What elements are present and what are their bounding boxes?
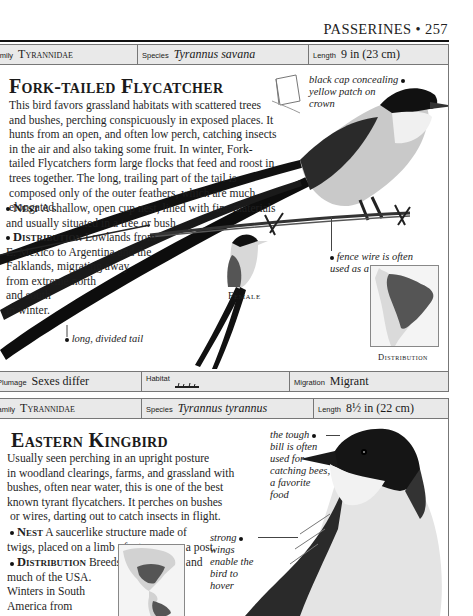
- migration-cell: Migration Migrant: [290, 372, 448, 391]
- callout-line: food: [270, 489, 330, 501]
- nest-text: A shallow, open cup nest, lined with fin…: [6, 202, 276, 230]
- female-bird-figure: [195, 234, 268, 369]
- entry-panel-fork-tailed-flycatcher: Fork-tailed Flycatcher This bird favors …: [0, 65, 449, 371]
- length-cell: Length 9 in (23 cm): [309, 45, 448, 64]
- bullet-icon: [6, 207, 10, 211]
- callout-line: fence wire is often: [337, 251, 413, 262]
- species-label: Species: [142, 51, 169, 60]
- species-value: Tyrannus savana: [174, 47, 255, 62]
- wings-leader-line: [258, 537, 298, 538]
- callout-line: used for: [270, 453, 330, 465]
- species-infobar-top: Family Tyrannidae Species Tyrannus tyran…: [0, 398, 449, 419]
- nest-label: Nest: [17, 525, 43, 539]
- family-cell: Family Tyrannidae: [0, 45, 138, 64]
- habitat-cell: Habitat: [142, 372, 290, 391]
- leader-dot-icon: [312, 434, 316, 438]
- callout-line: yellow patch on: [309, 86, 405, 98]
- grassland-habitat-icon: [175, 381, 199, 389]
- length-label: Length: [313, 51, 336, 60]
- description-text: This bird favors grassland habitats with…: [9, 99, 277, 216]
- leader-dot-icon: [401, 79, 405, 83]
- migration-value: Migrant: [330, 374, 369, 389]
- callout-line: catching bees,: [270, 465, 330, 477]
- fence-leader-line: [331, 217, 332, 251]
- description-line: Usually seen perching in an upright post…: [7, 452, 287, 467]
- callout-black-cap: black cap concealing yellow patch on cro…: [309, 74, 405, 110]
- family-label: Family: [0, 405, 15, 414]
- plumage-cell: Plumage Sexes differ: [0, 372, 142, 391]
- family-cell: Family Tyrannidae: [0, 399, 142, 418]
- callout-line: bird to: [210, 568, 253, 580]
- south-america-map-icon: [371, 266, 439, 347]
- distribution-map: [118, 544, 185, 616]
- species-label: Species: [146, 405, 173, 414]
- section-name: PASSERINES: [323, 21, 411, 37]
- bullet-icon: [10, 562, 14, 566]
- map-caption: Distribution: [378, 352, 428, 362]
- page-number: 257: [425, 21, 448, 37]
- callout-strong-wings: strong wings enable the bird to hover: [210, 532, 253, 592]
- species-title: Fork-tailed Flycatcher: [9, 75, 223, 98]
- distribution-map: [370, 265, 439, 347]
- nest-text: A saucerlike structure made of: [45, 526, 187, 539]
- species-description: This bird favors grassland habitats with…: [9, 99, 277, 216]
- leader-dot-icon: [65, 338, 69, 342]
- separator-bullet: •: [416, 21, 421, 37]
- running-head: PASSERINES • 257: [323, 21, 448, 38]
- distribution-section: Distribution Lowlands from E. Mexico to …: [6, 230, 186, 319]
- americas-map-icon: [119, 545, 185, 616]
- callout-line: long, divided tail: [72, 333, 143, 344]
- header-rule: [0, 40, 449, 42]
- migration-label: Migration: [294, 378, 325, 387]
- plumage-value: Sexes differ: [32, 374, 89, 389]
- description-line: known tyrant flycatchers. It perches on …: [7, 496, 287, 511]
- bill-leader-line: [326, 435, 340, 436]
- nest-section: Nest A shallow, open cup nest, lined wit…: [6, 201, 281, 231]
- species-value: Tyrannus tyrannus: [178, 401, 267, 416]
- callout-line: bill is often: [270, 441, 330, 453]
- description-line: bushes, often near water, this is one of…: [7, 481, 287, 496]
- callout-line: wings: [210, 544, 253, 556]
- leader-dot-icon: [239, 537, 243, 541]
- entry-panel-eastern-kingbird: Eastern Kingbird Usually seen perching i…: [0, 419, 449, 616]
- family-label: Family: [0, 51, 13, 60]
- distribution-line: from extreme north: [6, 275, 186, 290]
- species-infobar-bottom: Plumage Sexes differ Habitat Migration M…: [0, 371, 449, 392]
- bullet-icon: [10, 531, 14, 535]
- distribution-line: and south: [6, 289, 186, 304]
- callout-line: strong: [210, 532, 236, 543]
- habitat-label: Habitat: [146, 374, 170, 383]
- distribution-line: Lowlands from: [85, 231, 156, 244]
- description-line: in woodland clearings, farms, and grassl…: [7, 467, 287, 482]
- length-cell: Length 8½ in (22 cm): [314, 399, 448, 418]
- female-caption: Female: [228, 290, 261, 301]
- distribution-label: Distribution: [17, 555, 86, 569]
- distribution-line: E. Mexico to Argentina and the: [6, 246, 186, 261]
- nest-label: Nest: [13, 201, 39, 215]
- callout-tail: long, divided tail: [65, 333, 143, 345]
- description-line: or wires, darting out to catch insects i…: [7, 510, 287, 525]
- distribution-line: in winter.: [6, 304, 186, 319]
- family-value: Tyrannidae: [20, 401, 75, 416]
- species-title: Eastern Kingbird: [11, 429, 168, 452]
- callout-line: black cap concealing: [309, 74, 398, 85]
- callout-tough-bill: the tough bill is often used for catchin…: [270, 429, 330, 501]
- species-infobar-top: Family Tyrannidae Species Tyrannus savan…: [0, 44, 449, 65]
- callout-line: a favorite: [270, 477, 330, 489]
- callout-line: enable the: [210, 556, 253, 568]
- family-value: Tyrannidae: [18, 47, 73, 62]
- plumage-label: Plumage: [0, 378, 27, 387]
- callout-line: crown: [309, 98, 405, 110]
- distribution-label: Distribution: [13, 230, 82, 244]
- bullet-icon: [6, 236, 10, 240]
- length-value: 9 in (23 cm): [341, 47, 400, 62]
- length-value: 8½ in (22 cm): [346, 401, 414, 416]
- distribution-line: Falklands, migrating away: [6, 260, 186, 275]
- species-cell: Species Tyrannus tyrannus: [142, 399, 314, 418]
- length-label: Length: [318, 405, 341, 414]
- leader-dot-icon: [330, 256, 334, 260]
- callout-line: hover: [210, 580, 253, 592]
- species-cell: Species Tyrannus savana: [138, 45, 309, 64]
- callout-line: the tough: [270, 429, 309, 440]
